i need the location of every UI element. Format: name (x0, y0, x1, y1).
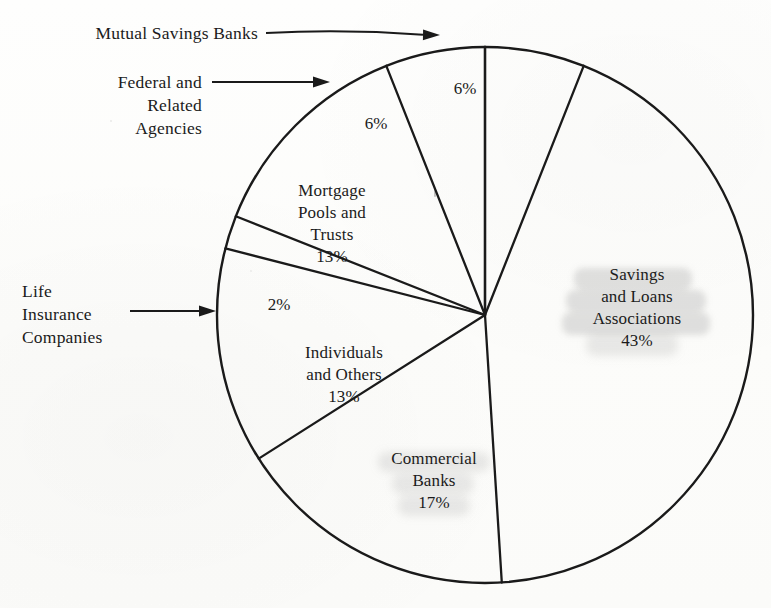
callout-arrow-head (313, 77, 330, 88)
pie-chart-page: Mutual Savings Banks Federal andRelatedA… (0, 0, 771, 608)
slice-pct-life-insurance-companies: 2% (250, 294, 308, 316)
callout-arrow-head (199, 306, 216, 317)
callout-label-mutual-savings-banks: Mutual Savings Banks (58, 22, 258, 45)
callout-label-life-insurance-companies: LifeInsuranceCompanies (22, 280, 142, 348)
slice-label-individuals-and-others: Individualsand Others13% (282, 342, 406, 408)
callout-label-federal-and-related-agencies: Federal andRelatedAgencies (80, 71, 202, 139)
slice-pct-mutual-savings-banks: 6% (435, 78, 495, 100)
slice-label-mortgage-pools-and-trusts: MortgagePools andTrusts13% (270, 180, 394, 268)
slice-label-commercial-banks: CommercialBanks17% (372, 448, 496, 514)
callout-arrow-head (423, 29, 440, 40)
slice-label-savings-and-loans-associations: Savingsand LoansAssociations43% (558, 264, 716, 352)
pie-divider-line (386, 66, 485, 315)
callout-arrow-shaft (266, 31, 423, 34)
slice-pct-federal-and-related-agencies: 6% (346, 113, 406, 135)
